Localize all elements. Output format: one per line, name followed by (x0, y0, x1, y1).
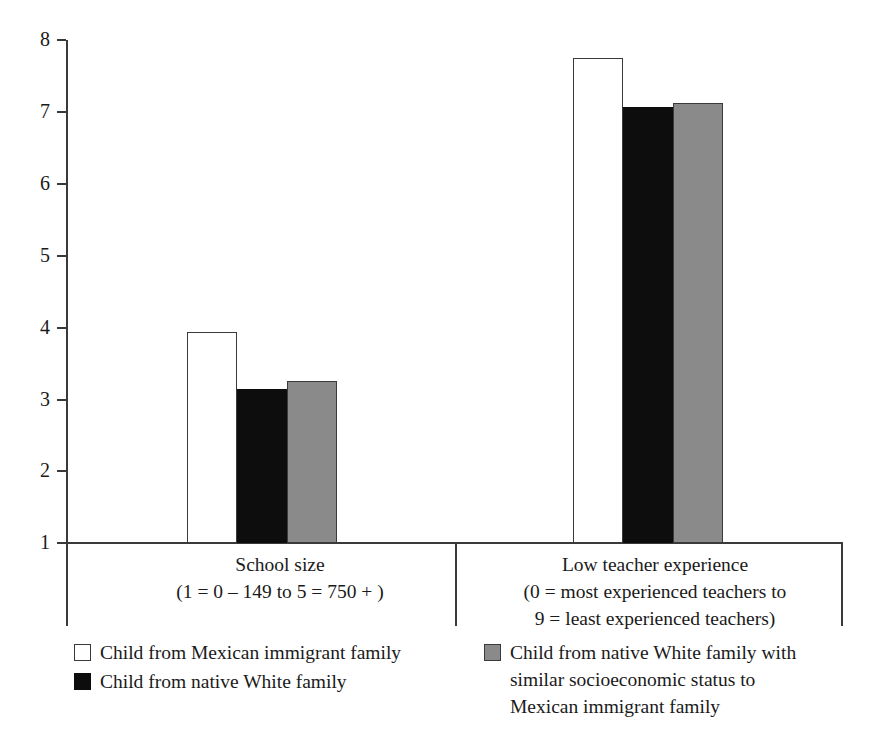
legend-right-column: Child from native White family with simi… (484, 639, 874, 722)
legend-label-mexican-immigrant-line1: Child from Mexican immigrant family (100, 639, 401, 666)
y-tick-label-2: 2 (8, 460, 50, 480)
y-tick-label-7: 7 (8, 101, 50, 121)
plot-area: 8 7 6 5 4 3 2 1 (0, 0, 876, 738)
group-label-low-teacher-experience-line1: Low teacher experience (470, 551, 840, 578)
group-label-low-teacher-experience-line3: 9 = least experienced teachers) (470, 605, 840, 632)
y-tick-label-5: 5 (8, 245, 50, 265)
legend-item-mexican-immigrant: Child from Mexican immigrant family (74, 639, 454, 666)
legend-label-mexican-immigrant: Child from Mexican immigrant family (100, 639, 401, 666)
group-label-school-size-line1: School size (120, 551, 440, 578)
group-label-school-size: School size (1 = 0 – 149 to 5 = 750 + ) (120, 551, 440, 605)
bar-low-teacher-experience-native-white-similar-ses (673, 103, 723, 543)
bar-low-teacher-experience-native-white (623, 107, 673, 543)
gray-square-icon (484, 644, 501, 661)
legend-item-native-white-similar-ses: Child from native White family with simi… (484, 639, 874, 720)
group-label-low-teacher-experience: Low teacher experience (0 = most experie… (470, 551, 840, 632)
legend-label-native-white-similar-ses-line1: Child from native White family with (510, 639, 796, 666)
group-label-low-teacher-experience-line2: (0 = most experienced teachers to (470, 578, 840, 605)
bar-low-teacher-experience-mexican-immigrant (573, 58, 623, 543)
legend-label-native-white: Child from native White family (100, 668, 347, 695)
black-square-icon (74, 673, 91, 690)
group-separator-line (455, 542, 457, 626)
y-tick-label-1: 1 (8, 532, 50, 552)
legend-label-native-white-line1: Child from native White family (100, 668, 347, 695)
legend-left-column: Child from Mexican immigrant family Chil… (74, 639, 454, 697)
x-axis-right-cap-line (841, 542, 843, 626)
bar-school-size-mexican-immigrant (187, 332, 237, 543)
group-label-school-size-line2: (1 = 0 – 149 to 5 = 750 + ) (120, 578, 440, 605)
y-tick-label-3: 3 (8, 389, 50, 409)
legend-label-native-white-similar-ses-line2: similar socioeconomic status to (510, 666, 796, 693)
legend-label-native-white-similar-ses-line3: Mexican immigrant family (510, 693, 796, 720)
y-tick-label-8: 8 (8, 29, 50, 49)
y-tick-label-6: 6 (8, 173, 50, 193)
white-square-icon (74, 644, 91, 661)
bar-chart-figure: 8 7 6 5 4 3 2 1 (0, 0, 876, 738)
legend-label-native-white-similar-ses: Child from native White family with simi… (510, 639, 796, 720)
y-tick-label-4: 4 (8, 317, 50, 337)
bar-school-size-native-white (237, 389, 287, 543)
legend-item-native-white: Child from native White family (74, 668, 454, 695)
bar-school-size-native-white-similar-ses (287, 381, 337, 543)
y-axis-line (66, 40, 68, 626)
